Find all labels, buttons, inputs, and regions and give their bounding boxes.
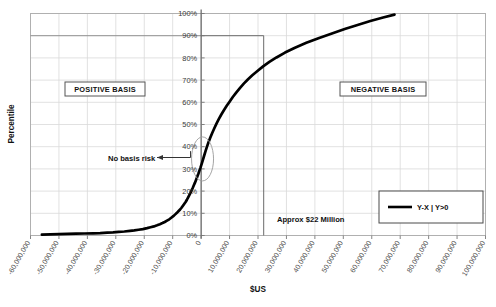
y-tick-label: 40% (182, 142, 197, 151)
x-axis-title: $US (250, 285, 266, 294)
y-tick-label: 100% (178, 9, 197, 18)
y-tick-label: 70% (182, 76, 197, 85)
positive-basis-annotation: POSITIVE BASIS (65, 82, 145, 96)
negative-basis-label: NEGATIVE BASIS (351, 85, 416, 94)
y-tick-label: 10% (182, 209, 197, 218)
y-tick-label: 30% (182, 165, 197, 174)
y-tick-label: 0% (186, 231, 197, 240)
y-tick-label: 90% (182, 31, 197, 40)
y-tick-label: 80% (182, 54, 197, 63)
y-tick-label: 60% (182, 98, 197, 107)
cdf-chart: -60,000,000-50,000,000-40,000,000-30,000… (0, 0, 496, 307)
negative-basis-annotation: NEGATIVE BASIS (340, 82, 426, 96)
chart-container: -60,000,000-50,000,000-40,000,000-30,000… (0, 0, 496, 307)
y-axis-title: Percentile (7, 104, 16, 144)
approx-amount-label: Approx $22 Million (277, 215, 345, 224)
legend-entry-label: Y-X | Y>0 (417, 203, 448, 212)
positive-basis-label: POSITIVE BASIS (74, 85, 136, 94)
y-tick-label: 20% (182, 187, 197, 196)
legend: Y-X | Y>0 (379, 191, 483, 223)
no-basis-risk-label: No basis risk (108, 154, 156, 163)
y-tick-label: 50% (182, 120, 197, 129)
